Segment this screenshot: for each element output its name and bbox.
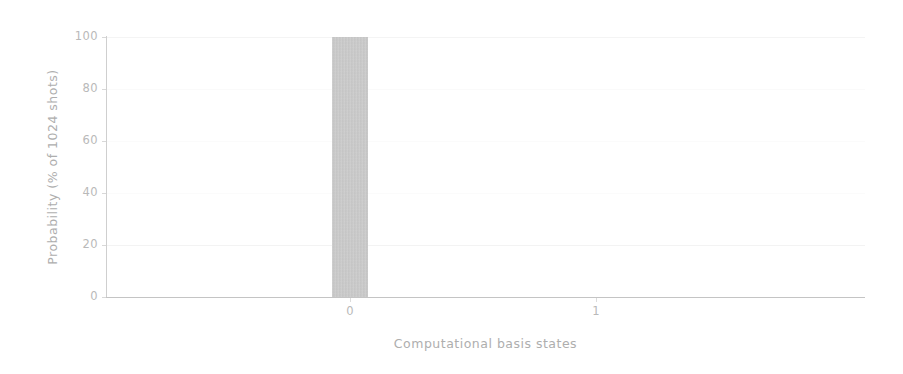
x-tick-label-1: 1 [592, 306, 600, 318]
y-tick-mark-60 [102, 141, 106, 142]
y-tick-mark-100 [102, 37, 106, 38]
y-tick-mark-80 [102, 89, 106, 90]
y-tick-mark-40 [102, 193, 106, 194]
bar-state-0[interactable] [332, 37, 368, 297]
x-axis-spine [106, 297, 865, 298]
x-axis-title: Computational basis states [106, 336, 865, 351]
plot-area [106, 37, 865, 297]
x-tick-label-0: 0 [346, 306, 354, 318]
y-tick-mark-0 [102, 297, 106, 298]
y-tick-label-20: 20 [62, 239, 98, 251]
histogram-figure: 100 80 60 40 20 0 0 1 Probability (% of … [0, 0, 903, 374]
y-tick-label-80: 80 [62, 83, 98, 95]
x-tick-mark-1 [596, 298, 597, 302]
y-tick-label-60: 60 [62, 135, 98, 147]
y-tick-label-100: 100 [62, 31, 98, 43]
y-tick-mark-20 [102, 245, 106, 246]
y-tick-label-0: 0 [62, 291, 98, 303]
y-tick-label-40: 40 [62, 187, 98, 199]
x-tick-mark-0 [350, 298, 351, 302]
y-axis-title: Probability (% of 1024 shots) [42, 37, 64, 297]
y-axis-spine [106, 36, 107, 298]
